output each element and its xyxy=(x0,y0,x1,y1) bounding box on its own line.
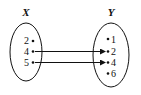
set-x-label: X xyxy=(21,6,30,18)
y-element: 4 xyxy=(111,57,116,68)
set-y-label: Y xyxy=(108,6,116,18)
y-point xyxy=(107,61,110,64)
x-point xyxy=(32,50,35,53)
y-point xyxy=(107,50,110,53)
x-point xyxy=(32,61,35,64)
y-point xyxy=(107,38,110,41)
x-element: 2 xyxy=(24,35,29,46)
x-element: 4 xyxy=(24,46,29,57)
y-element: 6 xyxy=(111,68,116,79)
x-point xyxy=(32,40,35,43)
y-point xyxy=(107,72,110,75)
y-element: 2 xyxy=(111,46,116,57)
x-element: 5 xyxy=(24,57,29,68)
y-element: 1 xyxy=(111,34,116,45)
mapping-diagram: X 2 4 5 Y 1 2 4 6 xyxy=(0,0,141,95)
